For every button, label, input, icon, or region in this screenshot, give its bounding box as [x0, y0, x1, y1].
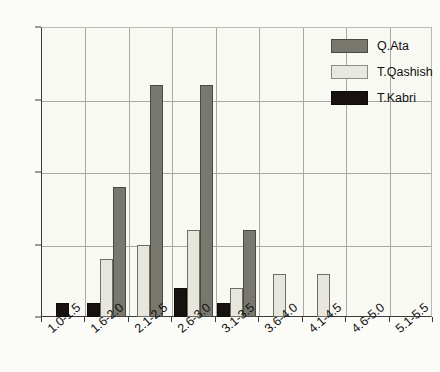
bar-group	[128, 27, 171, 317]
bar-group	[258, 27, 301, 317]
chart-legend: Q.AtaT.QashishT.Kabri	[331, 39, 433, 105]
legend-label: Q.Ata	[377, 39, 409, 53]
x-axis-tick	[345, 317, 346, 322]
x-axis-tick	[302, 317, 303, 322]
x-axis-tick	[389, 317, 390, 322]
bar-group	[41, 27, 84, 317]
legend-label: T.Kabri	[377, 91, 416, 105]
bar-group	[84, 27, 127, 317]
x-axis-tick	[128, 317, 129, 322]
x-axis-tick	[215, 317, 216, 322]
bar	[200, 85, 213, 317]
y-axis-tick	[35, 27, 41, 28]
bar	[187, 230, 200, 317]
bar-chart-figure: 1.0-1.51.6-2.02.1-2.52.6-3.03.1-3.53.6-4…	[0, 0, 440, 372]
bar	[174, 288, 187, 317]
bar	[137, 245, 150, 318]
bar-group	[215, 27, 258, 317]
legend-swatch	[331, 65, 368, 79]
x-axis-tick	[171, 317, 172, 322]
legend-item: Q.Ata	[331, 39, 433, 53]
legend-label: T.Qashish	[377, 65, 433, 79]
y-axis-tick	[35, 244, 41, 245]
legend-item: T.Qashish	[331, 65, 433, 79]
bar-group	[171, 27, 214, 317]
y-axis-tick	[35, 99, 41, 100]
x-axis: 1.0-1.51.6-2.02.1-2.52.6-3.03.1-3.53.6-4…	[41, 317, 432, 372]
x-axis-tick	[432, 317, 433, 322]
x-axis-tick	[258, 317, 259, 322]
x-axis-tick	[41, 317, 42, 322]
y-axis-tick	[35, 172, 41, 173]
bar	[150, 85, 163, 317]
x-axis-tick	[84, 317, 85, 322]
bar	[217, 303, 230, 318]
legend-swatch	[331, 39, 368, 53]
bar	[87, 303, 100, 318]
y-axis-tick	[35, 317, 41, 318]
bar	[113, 187, 126, 318]
legend-item: T.Kabri	[331, 91, 433, 105]
legend-swatch	[331, 91, 368, 105]
